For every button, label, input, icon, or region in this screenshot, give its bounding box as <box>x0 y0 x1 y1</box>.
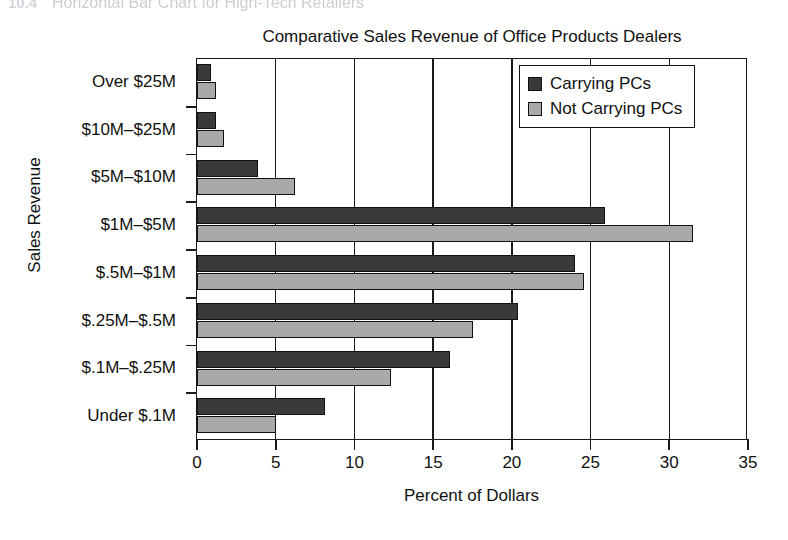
x-axis-tick <box>747 439 749 450</box>
legend-swatch-icon <box>528 77 542 91</box>
bar-not-carrying-pcs <box>197 416 276 433</box>
y-axis-tick <box>186 345 197 347</box>
bar-carrying-pcs <box>197 303 518 320</box>
legend-label: Not Carrying PCs <box>550 99 682 119</box>
legend-item[interactable]: Carrying PCs <box>528 71 682 96</box>
bar-not-carrying-pcs <box>197 369 391 386</box>
bar-carrying-pcs <box>197 351 450 368</box>
bar-group <box>197 155 746 203</box>
bar-not-carrying-pcs <box>197 321 473 338</box>
bar-not-carrying-pcs <box>197 273 584 290</box>
y-axis-tick <box>186 297 197 299</box>
y-axis-category-label: Over $25M <box>92 72 176 92</box>
bar-carrying-pcs <box>197 255 575 272</box>
y-axis-category-label: $.1M–$.25M <box>82 358 177 378</box>
x-axis-title: Percent of Dollars <box>196 486 747 506</box>
y-axis-title: Sales Revenue <box>25 135 45 295</box>
bar-chart-figure: Comparative Sales Revenue of Office Prod… <box>0 0 788 540</box>
bar-not-carrying-pcs <box>197 178 295 195</box>
y-axis-tick <box>186 154 197 156</box>
y-axis-tick <box>186 201 197 203</box>
bar-carrying-pcs <box>197 64 211 81</box>
bar-carrying-pcs <box>197 398 325 415</box>
y-axis-tick <box>186 249 197 251</box>
y-axis-category-label: $5M–$10M <box>91 167 176 187</box>
y-axis-tick <box>186 106 197 108</box>
chart-legend: Carrying PCsNot Carrying PCs <box>519 65 695 128</box>
x-axis-tick-label: 30 <box>660 453 679 473</box>
bar-group <box>197 250 746 298</box>
y-axis-category-label: $10M–$25M <box>81 120 176 140</box>
y-axis-category-label: $1M–$5M <box>100 215 176 235</box>
x-axis-tick-label: 15 <box>424 453 443 473</box>
x-axis-tick-label: 0 <box>192 453 201 473</box>
bar-group <box>197 298 746 346</box>
x-axis-tick-label: 10 <box>345 453 364 473</box>
bar-carrying-pcs <box>197 160 258 177</box>
legend-label: Carrying PCs <box>550 74 651 94</box>
bar-group <box>197 202 746 250</box>
bar-not-carrying-pcs <box>197 82 216 99</box>
x-axis-tick-label: 25 <box>581 453 600 473</box>
x-axis-tick-label: 20 <box>502 453 521 473</box>
y-axis-category-label: $.25M–$.5M <box>82 311 177 331</box>
bar-group <box>197 393 746 441</box>
y-axis-category-label: $.5M–$1M <box>96 263 176 283</box>
bar-carrying-pcs <box>197 112 216 129</box>
legend-swatch-icon <box>528 102 542 116</box>
bar-group <box>197 346 746 394</box>
bar-not-carrying-pcs <box>197 130 224 147</box>
y-axis-category-label: Under $.1M <box>87 406 176 426</box>
y-axis-tick <box>186 392 197 394</box>
bar-carrying-pcs <box>197 207 605 224</box>
chart-title: Comparative Sales Revenue of Office Prod… <box>196 27 748 47</box>
x-axis-tick-label: 5 <box>271 453 280 473</box>
x-axis-tick-label: 35 <box>739 453 758 473</box>
bar-not-carrying-pcs <box>197 225 693 242</box>
legend-item[interactable]: Not Carrying PCs <box>528 96 682 121</box>
